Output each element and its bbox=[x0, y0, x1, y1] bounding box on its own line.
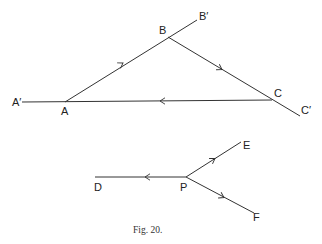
label-f: F bbox=[253, 211, 260, 223]
line-a-prime-to-c bbox=[22, 100, 272, 102]
figure-20: A′ A B B′ C C′ D P E F Fig. 20. bbox=[0, 0, 322, 244]
label-a: A bbox=[61, 105, 69, 117]
line-p-to-e bbox=[186, 142, 241, 177]
label-e: E bbox=[243, 139, 250, 151]
arrow-a-to-b-icon bbox=[117, 60, 125, 68]
triangle-diagram: A′ A B B′ C C′ bbox=[12, 10, 311, 117]
forces-at-p-diagram: D P E F bbox=[94, 139, 260, 223]
label-c-prime: C′ bbox=[301, 104, 311, 116]
label-p: P bbox=[180, 181, 187, 193]
label-c: C bbox=[274, 87, 282, 99]
label-d: D bbox=[94, 181, 102, 193]
label-b-prime: B′ bbox=[199, 10, 208, 22]
label-b: B bbox=[159, 24, 166, 36]
figure-caption: Fig. 20. bbox=[133, 225, 162, 235]
line-a-to-b-prime bbox=[65, 20, 197, 102]
label-a-prime: A′ bbox=[12, 96, 21, 108]
line-b-to-c-prime bbox=[168, 37, 300, 116]
line-p-to-f bbox=[186, 177, 254, 213]
